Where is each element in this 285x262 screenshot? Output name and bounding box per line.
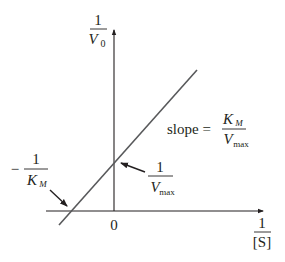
y-axis-label-numerator: 1 [94,12,102,28]
y-intercept-numerator: 1 [156,159,164,175]
slope-denominator-sub: max [233,139,249,149]
x-axis-label-denominator: [S] [253,234,271,250]
x-axis-label-numerator: 1 [258,215,266,231]
x-intercept-numerator: 1 [32,151,40,167]
x-intercept-sign: − [11,161,19,177]
y-intercept-label: 1 V max [148,159,175,197]
y-axis-label: 1 V 0 [88,12,107,49]
x-intercept-pointer-arrow [50,190,67,206]
slope-numerator-sub: M [234,118,243,128]
plot-line [59,70,197,225]
slope-label-prefix: slope = [167,121,211,137]
x-intercept-var: K [26,172,38,188]
y-axis-label-sub: 0 [101,38,106,49]
y-intercept-sub: max [159,187,175,197]
x-axis-label: 1 [S] [253,215,271,250]
slope-numerator-var: K [222,111,234,127]
lineweaver-burk-diagram: 1 V 0 1 [S] 0 slope = K M V max 1 V max … [0,0,285,262]
origin-label: 0 [110,217,118,233]
slope-label: slope = K M V max [167,111,249,149]
x-intercept-sub: M [38,179,47,189]
x-intercept-label: − 1 K M [11,151,48,189]
y-intercept-pointer-arrow [121,163,145,172]
y-axis-label-var: V [88,31,99,47]
